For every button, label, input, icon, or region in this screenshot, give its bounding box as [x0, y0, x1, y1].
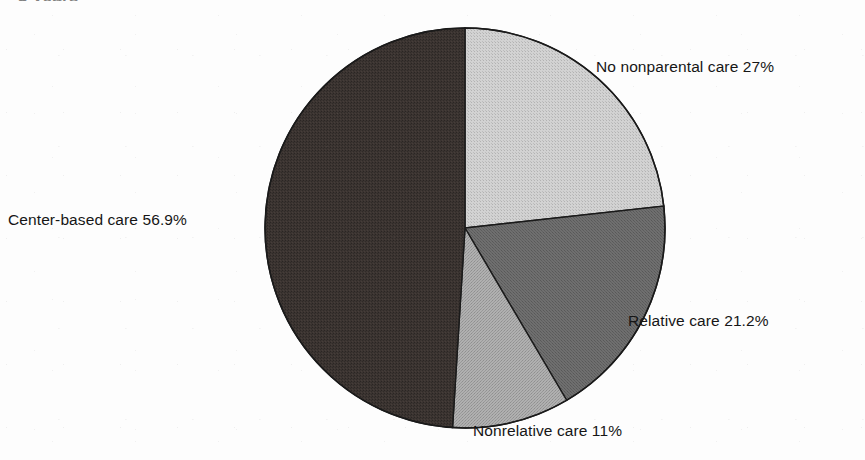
- slice-label-no-nonparental-care: No nonparental care 27%: [596, 58, 774, 76]
- pie-chart: No nonparental care 27% Center-based car…: [0, 0, 865, 460]
- slice-label-center-based-care: Center-based care 56.9%: [8, 211, 187, 229]
- pie-slices: [265, 28, 665, 428]
- slice-label-nonrelative-care: Nonrelative care 11%: [473, 422, 622, 440]
- slice-label-relative-care: Relative care 21.2%: [628, 312, 769, 330]
- pie-slice-center-based-care: [265, 28, 465, 428]
